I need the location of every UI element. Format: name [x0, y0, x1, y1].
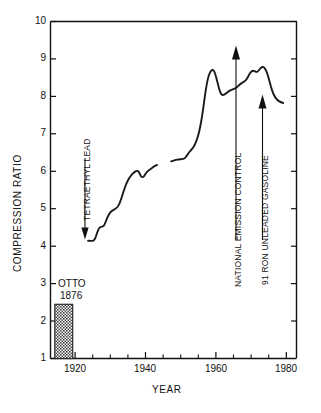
x-tick-label-1960: 1960	[196, 363, 236, 374]
annotation-tetraethyl-lead: TETRAETHYL LEAD	[82, 138, 92, 221]
x-axis-title: YEAR	[152, 384, 182, 395]
annotation-unleaded-gasoline: 91 RON UNLEADED GASOLINE	[260, 155, 270, 285]
series-line-prewar	[88, 165, 157, 241]
y-axis-title: COMPRESSION RATIO	[12, 154, 23, 272]
x-tick-label-1920: 1920	[55, 363, 95, 374]
otto-bar-label-line1: OTTO	[58, 278, 86, 289]
y-tick-label-8: 8	[24, 90, 46, 101]
compression-ratio-chart: 10 9 8 7 6 5 4 3 2 1 1920 1940 1960 1980…	[0, 0, 321, 413]
x-tick-label-1940: 1940	[125, 363, 165, 374]
y-tick-label-4: 4	[24, 240, 46, 251]
y-tick-label-7: 7	[24, 127, 46, 138]
right-axis-ticks	[291, 59, 297, 321]
x-tick-label-1980: 1980	[266, 363, 306, 374]
y-tick-label-5: 5	[24, 202, 46, 213]
y-tick-label-2: 2	[24, 315, 46, 326]
otto-bar	[55, 304, 73, 358]
plot-svg	[0, 0, 321, 413]
y-tick-label-10: 10	[24, 15, 46, 26]
y-tick-label-1: 1	[24, 352, 46, 363]
series-line-postwar	[171, 67, 283, 161]
y-tick-label-3: 3	[24, 277, 46, 288]
y-tick-label-6: 6	[24, 165, 46, 176]
y-tick-label-9: 9	[24, 52, 46, 63]
annotation-national-emission-control: NATIONAL EMISSION CONTROL	[233, 153, 243, 287]
otto-bar-label-line2: 1876	[60, 290, 82, 301]
